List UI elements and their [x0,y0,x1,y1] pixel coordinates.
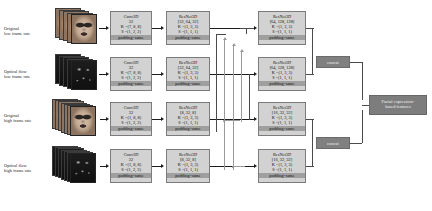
frame-stack-flow-high [52,146,100,186]
concat-bottom: concat [316,137,350,149]
block-stride: S =(1, 2, 2) [111,120,151,125]
output-input-line [350,62,362,63]
arrow-head [161,164,164,168]
arrow-line [152,119,161,120]
block-padding: padding=same [167,81,209,86]
routing-line [240,28,254,29]
resnet-stage2-block-2: ResNet3D [64, 128, 128] K =(1, 3, 3) S =… [258,57,306,91]
video-frame [71,14,97,44]
block-padding: padding=same [167,173,209,178]
conv-block-2: Conv3D 32 K =(7, 8, 8) S =(1, 2, 2) padd… [110,57,152,91]
block-stride: S =(1, 2, 2) [111,75,151,80]
output-label-line2: based features [370,104,426,110]
resnet-stage1-block-3: ResNet3D [8, 32, 8] K =(1, 3, 3) S =(1, … [166,102,210,136]
block-padding: padding=same [111,126,151,131]
block-padding: padding=same [167,126,209,131]
concat-top: concat [316,56,350,68]
input-label-line1: Original [4,113,19,118]
block-padding: padding=same [111,35,151,40]
routing-line [249,74,250,120]
input-label-line2: low frame rate [4,31,30,36]
arrow-line [99,74,106,75]
concat-input-line [306,74,314,75]
face-thumbnail [72,15,96,43]
routing-line [216,34,217,132]
output-input-line [362,62,363,100]
conv-block-4: Conv3D 32 K =(1, 8, 8) S =(1, 2, 2) padd… [110,149,152,183]
lateral-connection-line [224,40,225,170]
lateral-connection-line [241,52,242,122]
resnet-stage2-block-4: ResNet3D [16, 32, 32] K =(1, 3, 3) S =(1… [258,149,306,183]
input-label-line1: Optical flow [4,69,27,74]
input-label-line2: low frame rate [4,74,30,79]
concat-input-line [312,28,313,62]
input-label-line2: high frame rate [4,168,32,173]
conv-block-3: Conv3D 32 K =(1, 8, 8) S =(1, 2, 2) padd… [110,102,152,136]
block-stride: S =(1, 1, 1) [259,120,305,125]
lateral-arrow-head [232,43,236,46]
block-stride: S =(1, 1, 1) [167,120,209,125]
block-stride: S =(1, 1, 1) [167,29,209,34]
arrow-line [152,166,161,167]
block-stride: S =(1, 1, 1) [167,167,209,172]
optical-flow-thumbnail [71,154,95,182]
arrow-head [161,117,164,121]
block-stride: S =(1, 1, 1) [259,167,305,172]
concat-input-line [306,119,314,120]
input-label-original-low: Original low frame rate [4,26,60,37]
lateral-connection-line [233,166,245,167]
frame-stack-flow-low [55,54,99,94]
arrow-head [254,164,257,168]
block-stride: S =(1, 1, 1) [167,75,209,80]
lateral-arrow-head [240,49,244,52]
arrow-head [106,164,109,168]
block-padding: padding=same [259,173,305,178]
routing-line [246,28,247,34]
input-label-line1: Optical flow [4,163,27,168]
concat-input-line [312,155,313,166]
concat-input-line [306,166,314,167]
block-stride: S =(1, 1, 1) [259,29,305,34]
diagram-canvas: Original low frame rate Conv3D 32 K =(7,… [0,0,432,211]
block-padding: padding=same [259,126,305,131]
output-input-line [350,143,362,144]
block-padding: padding=same [111,81,151,86]
block-padding: padding=same [111,173,151,178]
lateral-connection-line [224,120,240,121]
arrow-head [106,117,109,121]
arrow-head [161,26,164,30]
routing-line [216,34,226,35]
arrow-head [254,117,257,121]
block-padding: padding=same [259,35,305,40]
video-frame [70,106,96,136]
arrow-head [254,72,257,76]
resnet-stage1-block-4: ResNet3D [8, 32, 8] K =(1, 3, 3) S =(1, … [166,149,210,183]
concat-input-line [312,62,313,74]
resnet-stage2-block-3: ResNet3D [16, 32, 32] K =(1, 3, 3) S =(1… [258,102,306,136]
arrow-line [99,28,106,29]
face-thumbnail [71,107,95,135]
frame-stack-original-high [52,99,100,139]
lateral-connection-line [233,46,234,170]
video-frame [71,60,97,90]
input-label-line2: high frame rate [4,118,32,123]
arrow-head [161,72,164,76]
block-stride: S =(1, 2, 2) [111,167,151,172]
arrow-line [152,74,161,75]
arrow-line [152,28,161,29]
frame-stack-original-low [55,8,99,48]
arrow-head [254,26,257,30]
input-label-line1: Original [4,26,19,31]
resnet-stage1-block-1: ResNet3D [32, 64, 32] K =(1, 3, 3) S =(1… [166,11,210,45]
resnet-stage2-block-1: ResNet3D [64, 128, 128] K =(1, 3, 3) S =… [258,11,306,45]
output-features-box: Facial expression- based features [369,95,427,115]
video-frame [70,153,96,183]
block-padding: padding=same [259,81,305,86]
concat-input-line [306,28,314,29]
arrow-head [106,26,109,30]
resnet-stage1-block-2: ResNet3D [32, 64, 32] K =(1, 3, 3) S =(1… [166,57,210,91]
lateral-arrow-head [223,37,227,40]
output-input-line [362,110,363,143]
input-label-flow-low: Optical flow low frame rate [4,69,60,80]
optical-flow-thumbnail [72,61,96,89]
